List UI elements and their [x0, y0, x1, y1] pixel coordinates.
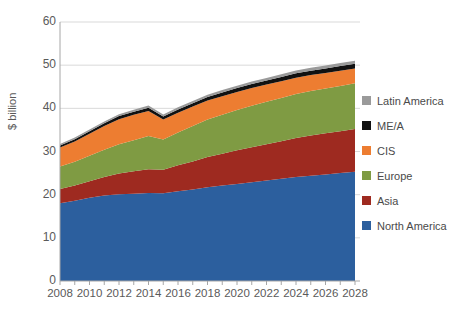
- legend-item[interactable]: North America: [362, 213, 462, 238]
- legend-label: Latin America: [377, 95, 444, 107]
- legend-swatch-icon: [362, 196, 371, 205]
- legend-label: Europe: [377, 170, 412, 182]
- stacked-area-chart: $ billion 0102030405060 2008201020122014…: [0, 0, 465, 315]
- legend-item[interactable]: Europe: [362, 163, 462, 188]
- legend-label: Asia: [377, 195, 398, 207]
- legend-swatch-icon: [362, 221, 371, 230]
- legend-swatch-icon: [362, 121, 371, 130]
- legend-swatch-icon: [362, 146, 371, 155]
- legend-item[interactable]: Latin America: [362, 88, 462, 113]
- legend-swatch-icon: [362, 96, 371, 105]
- x-tick-label: 2028: [337, 287, 373, 299]
- legend-label: North America: [377, 220, 447, 232]
- chart-legend: Latin AmericaME/ACISEuropeAsiaNorth Amer…: [362, 88, 462, 238]
- legend-item[interactable]: CIS: [362, 138, 462, 163]
- legend-item[interactable]: ME/A: [362, 113, 462, 138]
- legend-item[interactable]: Asia: [362, 188, 462, 213]
- legend-swatch-icon: [362, 171, 371, 180]
- x-axis-ticks: 2008201020122014201620182020202220242026…: [0, 287, 465, 307]
- legend-label: CIS: [377, 145, 395, 157]
- legend-label: ME/A: [377, 120, 404, 132]
